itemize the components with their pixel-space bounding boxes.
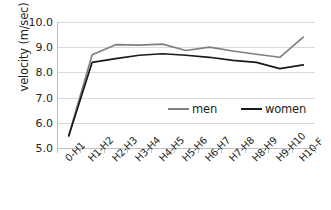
x-axis-tick-mark — [80, 149, 81, 153]
legend-item-men[interactable]: men — [168, 102, 217, 116]
x-axis-tick-mark — [151, 149, 152, 153]
x-axis-tick-mark — [268, 149, 269, 153]
x-axis-tick-mark — [245, 149, 246, 153]
x-axis-tick-mark — [104, 149, 105, 153]
legend-label-women: women — [265, 102, 306, 116]
line-chart: velocity (m/sec) 5.06.07.08.09.010.0 0-H… — [0, 0, 331, 210]
series-line-women — [69, 54, 304, 136]
x-axis-tick-mark — [315, 149, 316, 153]
x-axis-tick-mark — [198, 149, 199, 153]
x-axis-tick-mark — [292, 149, 293, 153]
x-axis-tick-mark — [174, 149, 175, 153]
legend-label-men: men — [192, 102, 217, 116]
x-axis-tick-mark — [127, 149, 128, 153]
legend-swatch-women — [241, 108, 262, 110]
series-line-men — [69, 37, 304, 135]
x-axis-tick-mark — [221, 149, 222, 153]
legend-item-women[interactable]: women — [241, 102, 306, 116]
legend-swatch-men — [168, 108, 189, 110]
legend: men women — [168, 100, 316, 118]
x-axis-tick-mark — [57, 149, 58, 153]
